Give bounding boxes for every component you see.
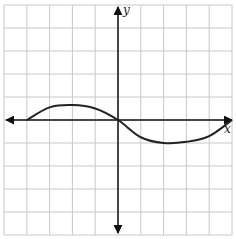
coordinate-plane xyxy=(0,0,236,239)
function-curve xyxy=(27,105,232,143)
x-axis-label: x xyxy=(224,122,231,136)
y-axis-label: y xyxy=(123,3,130,17)
